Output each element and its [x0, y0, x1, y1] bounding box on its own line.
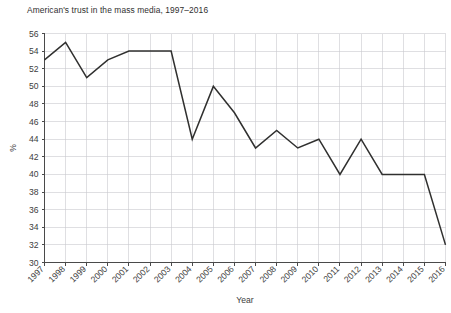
svg-text:2010: 2010 [300, 264, 321, 285]
svg-text:2014: 2014 [384, 264, 405, 285]
svg-text:56: 56 [29, 29, 39, 39]
data-series-line [45, 42, 446, 245]
svg-text:1998: 1998 [46, 264, 67, 285]
horizontal-gridlines [45, 34, 446, 263]
svg-text:52: 52 [29, 64, 39, 74]
svg-text:2004: 2004 [173, 264, 194, 285]
svg-text:2002: 2002 [131, 264, 152, 285]
svg-text:42: 42 [29, 152, 39, 162]
vertical-gridlines [45, 34, 446, 263]
svg-text:2012: 2012 [342, 264, 363, 285]
svg-text:2000: 2000 [89, 264, 110, 285]
svg-text:2013: 2013 [363, 264, 384, 285]
svg-text:38: 38 [29, 187, 39, 197]
svg-text:32: 32 [29, 240, 39, 250]
svg-text:2011: 2011 [321, 264, 341, 284]
svg-text:2009: 2009 [279, 264, 300, 285]
svg-text:2008: 2008 [257, 264, 278, 285]
svg-text:2016: 2016 [426, 264, 447, 285]
svg-text:2015: 2015 [405, 264, 426, 285]
chart-container: American's trust in the mass media, 1997… [0, 0, 451, 313]
svg-text:2007: 2007 [236, 264, 257, 285]
svg-text:2006: 2006 [215, 264, 236, 285]
svg-text:46: 46 [29, 117, 39, 127]
x-axis-title: Year [236, 295, 254, 305]
y-axis-tick-labels: 3032343638404244464850525456 [29, 29, 39, 268]
svg-text:1999: 1999 [68, 264, 89, 285]
y-axis-title: % [8, 144, 18, 152]
line-chart-plot: 3032343638404244464850525456 19971998199… [0, 0, 451, 313]
x-axis-tick-labels: 1997199819992000200120022003200420052006… [25, 264, 447, 285]
svg-text:54: 54 [29, 46, 39, 56]
svg-text:44: 44 [29, 134, 39, 144]
svg-text:2005: 2005 [194, 264, 215, 285]
svg-text:2003: 2003 [152, 264, 173, 285]
svg-text:50: 50 [29, 81, 39, 91]
svg-text:48: 48 [29, 99, 39, 109]
svg-text:40: 40 [29, 169, 39, 179]
svg-text:36: 36 [29, 205, 39, 215]
svg-text:34: 34 [29, 222, 39, 232]
svg-text:2001: 2001 [110, 264, 131, 285]
